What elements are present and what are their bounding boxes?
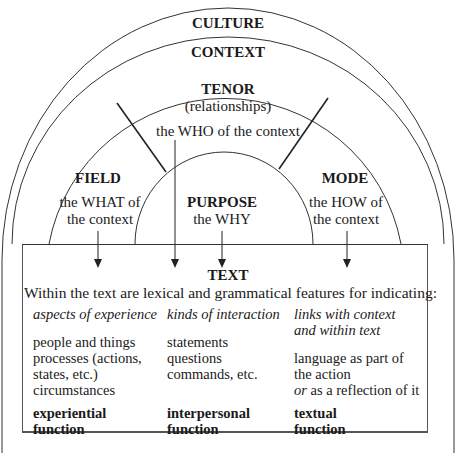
col3-heading: and within text (294, 322, 380, 338)
field-arrow-icon (94, 259, 102, 268)
mode-line2: the context (303, 211, 389, 228)
purpose-title: PURPOSE (177, 194, 267, 211)
col2-item: commands, etc. (167, 366, 258, 382)
col1-item: states, etc.) (33, 366, 98, 382)
context-label: CONTEXT (178, 44, 278, 61)
purpose-description: the WHY (177, 211, 267, 228)
col1-function: experiential (33, 405, 106, 421)
culture-label: CULTURE (178, 15, 278, 32)
tenor-title: TENOR (178, 81, 278, 98)
col1-function: function (33, 421, 85, 437)
mode-arrow-icon (343, 259, 351, 268)
col1-item: people and things (33, 334, 135, 350)
field-title: FIELD (68, 170, 128, 187)
tenor-subtitle: (relationships) (158, 98, 298, 115)
mode-title: MODE (315, 170, 375, 187)
col2-item: statements (167, 334, 228, 350)
col2-heading: kinds of interaction (167, 306, 280, 322)
tenor-description: the WHO of the context (138, 123, 318, 140)
col3-function: function (294, 421, 346, 437)
col2-function: interpersonal (167, 405, 250, 421)
field-line2: the context (55, 211, 145, 228)
col1-item: circumstances (33, 382, 115, 398)
text-title: TEXT (178, 267, 278, 284)
col2-function: function (167, 421, 219, 437)
col3-item: the action (294, 366, 351, 382)
col1-heading: aspects of experience (33, 306, 157, 322)
col3-item-last: or as a reflection of it (294, 382, 419, 398)
text-intro: Within the text are lexical and grammati… (24, 284, 424, 301)
col1-item: processes (actions, (33, 350, 142, 366)
col2-item: questions (167, 350, 222, 366)
col3-or: or (294, 382, 307, 398)
col3-item: language as part of (294, 350, 404, 366)
field-line1: the WHAT of (55, 194, 145, 211)
col3-reflection: as a reflection of it (307, 382, 419, 398)
mode-line1: the HOW of (303, 194, 389, 211)
col3-function: textual (294, 405, 337, 421)
col3-heading: links with context (294, 306, 395, 322)
